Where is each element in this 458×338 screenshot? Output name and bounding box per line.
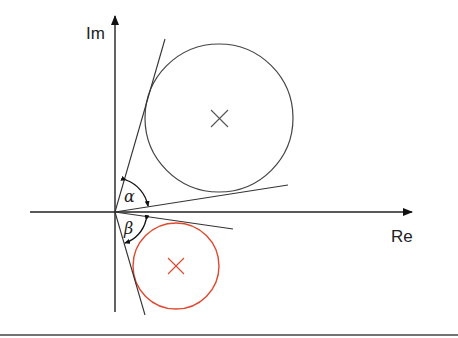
lower-pole-marker [168,258,184,274]
beta-label: β [123,219,133,238]
diagram-canvas: Re Im α β [0,0,458,338]
axes: Re Im [30,16,413,312]
upper-tangent-right [115,185,288,212]
upper-pole-marker [211,110,228,127]
im-axis-label: Im [86,24,105,43]
upper-circle-group [115,39,293,212]
alpha-label: α [124,187,135,206]
re-axis-label: Re [391,227,413,246]
alpha-angle: α [124,180,148,206]
upper-tangent-left [115,39,165,212]
